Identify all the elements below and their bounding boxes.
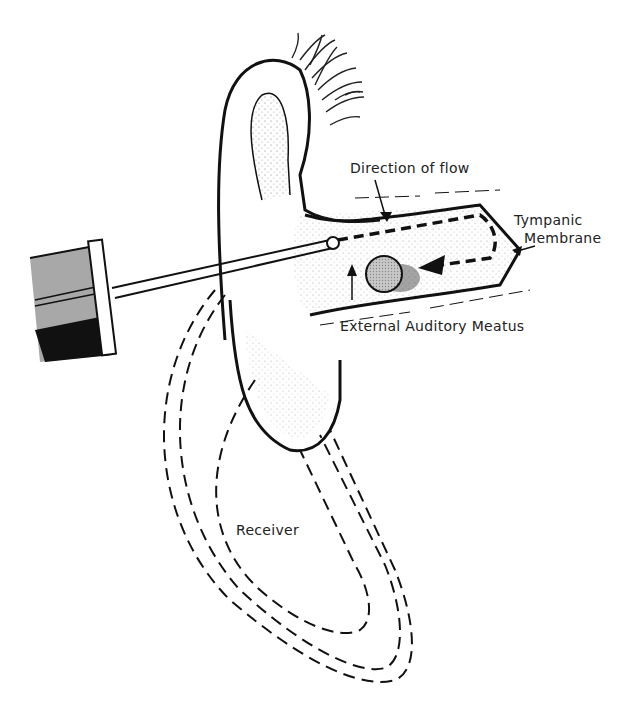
label-tympanic: Tympanic	[514, 212, 583, 228]
syringe	[30, 237, 339, 362]
label-direction-of-flow: Direction of flow	[350, 160, 470, 176]
illustration	[0, 0, 617, 708]
ear-inner-fold	[251, 93, 290, 200]
label-membrane: Membrane	[524, 230, 601, 246]
syringe-tip	[327, 237, 339, 249]
foreign-object	[366, 256, 402, 292]
label-external-auditory-meatus: External Auditory Meatus	[340, 318, 524, 334]
ear-irrigation-diagram: Direction of flow Tympanic Membrane Exte…	[0, 0, 617, 708]
label-receiver: Receiver	[236, 522, 299, 538]
receiver-basin	[164, 290, 412, 682]
